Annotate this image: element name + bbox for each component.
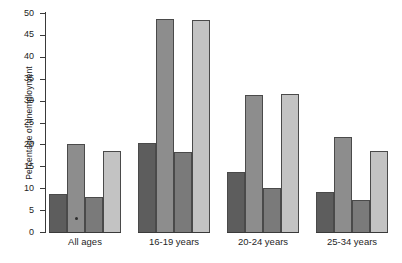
- y-axis-tick-label: 30: [0, 96, 34, 105]
- image-speck-artifact: [75, 217, 78, 220]
- bar[interactable]: [370, 151, 388, 232]
- y-axis-tick: [40, 232, 46, 233]
- bar[interactable]: [174, 152, 192, 232]
- plot-area: All ages16-19 years20-24 years25-34 year…: [46, 13, 394, 232]
- bar-group-bars: [138, 13, 210, 232]
- bar[interactable]: [67, 144, 85, 232]
- bar[interactable]: [85, 197, 103, 232]
- bar-group-bars: [316, 13, 388, 232]
- bar[interactable]: [103, 151, 121, 232]
- bar[interactable]: [245, 95, 263, 232]
- y-axis-tick-label: 35: [0, 74, 34, 83]
- y-axis-tick-label: 5: [0, 206, 34, 215]
- y-axis-tick-label: 0: [0, 228, 34, 237]
- y-axis-tick-label: 40: [0, 52, 34, 61]
- bar-group: All ages: [49, 13, 121, 232]
- x-axis-category-label: 25-34 years: [294, 237, 402, 247]
- bar[interactable]: [263, 188, 281, 232]
- bar[interactable]: [352, 200, 370, 232]
- bar[interactable]: [156, 19, 174, 232]
- bar-chart: Percentage of unemployment 0510152025303…: [0, 0, 402, 263]
- bar[interactable]: [192, 20, 210, 232]
- bar-group: 20-24 years: [227, 13, 299, 232]
- y-axis-tick-label: 50: [0, 9, 34, 18]
- bar[interactable]: [49, 194, 67, 232]
- bar-group: 25-34 years: [316, 13, 388, 232]
- y-axis-tick-label: 20: [0, 140, 34, 149]
- bar[interactable]: [281, 94, 299, 232]
- group-baseline: [49, 232, 121, 233]
- bar-group-bars: [227, 13, 299, 232]
- group-baseline: [138, 232, 210, 233]
- bar[interactable]: [138, 143, 156, 232]
- y-axis-tick-label: 10: [0, 184, 34, 193]
- bar-group: 16-19 years: [138, 13, 210, 232]
- group-baseline: [316, 232, 388, 233]
- y-axis-tick-label: 25: [0, 118, 34, 127]
- group-baseline: [227, 232, 299, 233]
- bar[interactable]: [316, 192, 334, 232]
- bar-group-bars: [49, 13, 121, 232]
- bar[interactable]: [227, 172, 245, 232]
- y-axis-tick-label: 45: [0, 30, 34, 39]
- y-axis-tick-label: 15: [0, 162, 34, 171]
- bar[interactable]: [334, 137, 352, 232]
